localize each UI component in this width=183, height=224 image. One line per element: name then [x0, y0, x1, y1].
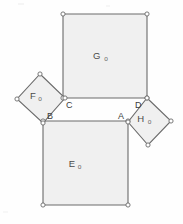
- square-eo-label: E: [69, 158, 76, 169]
- square-fo-label-subscript: o: [38, 95, 42, 102]
- vertex-label-a: A: [118, 111, 124, 121]
- vertex-marker: [145, 12, 149, 16]
- vertex-marker: [38, 72, 42, 76]
- vertex-marker: [145, 96, 149, 100]
- square-ho-label: H: [137, 113, 144, 124]
- vertex-label-d: D: [135, 100, 142, 110]
- vertex-marker: [126, 203, 130, 207]
- square-eo-label-subscript: o: [78, 163, 82, 170]
- square-ho-label-subscript: o: [148, 118, 152, 125]
- vertex-label-c: C: [66, 100, 73, 110]
- vertex-marker: [61, 12, 65, 16]
- vertex-labels-group: ABCD: [47, 100, 142, 121]
- regions-group: [17, 14, 171, 205]
- geometry-figure: GoEoFoHo ABCD: [0, 0, 183, 224]
- vertex-marker: [126, 120, 130, 124]
- square-eo: [43, 121, 128, 205]
- square-go-label: G: [93, 50, 101, 61]
- vertex-label-b: B: [47, 111, 53, 121]
- vertex-marker: [41, 121, 45, 125]
- vertex-marker: [169, 119, 173, 123]
- vertex-marker: [146, 143, 150, 147]
- vertex-marker: [15, 97, 19, 101]
- square-go-label-subscript: o: [104, 55, 108, 62]
- square-fo-label: F: [30, 90, 36, 101]
- vertex-marker: [41, 203, 45, 207]
- figure-canvas: GoEoFoHo ABCD: [0, 0, 183, 224]
